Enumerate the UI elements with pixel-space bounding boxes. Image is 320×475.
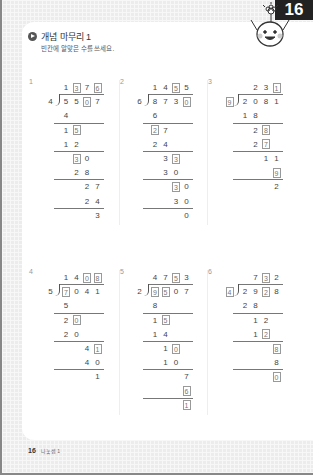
answer-box[interactable]: 6 (94, 83, 102, 93)
subtraction-line (143, 151, 193, 152)
digit: 0 (172, 357, 180, 368)
digit: 1 (151, 315, 159, 326)
digit: 8 (273, 286, 281, 297)
answer-box[interactable]: 8 (262, 125, 270, 135)
answer-box[interactable]: 3 (73, 83, 81, 93)
instruction-text: 빈칸에 알맞은 수를 쓰세요. (41, 43, 114, 53)
digit: 4 (62, 110, 70, 121)
digit: 4 (162, 139, 170, 150)
digit: 0 (172, 286, 180, 297)
division-bar (149, 284, 193, 285)
subtraction-line (54, 369, 104, 370)
subtraction-line (233, 123, 283, 124)
subtraction-line (233, 313, 283, 314)
answer-box[interactable]: 0 (183, 97, 191, 107)
subtraction-line (143, 179, 193, 180)
column-divider (207, 270, 208, 415)
subtraction-line (143, 208, 193, 209)
digit: 9 (252, 286, 260, 297)
digit: 0 (183, 196, 191, 207)
digit: 5 (47, 286, 55, 297)
digit: 1 (162, 343, 170, 354)
digit: 7 (162, 96, 170, 107)
answer-box[interactable]: 5 (162, 315, 170, 325)
footer: 16 나눗셈 1 (28, 447, 60, 454)
digit: 2 (73, 139, 81, 150)
digit: 2 (252, 125, 260, 136)
digit: 0 (183, 181, 191, 192)
digit: 2 (262, 315, 270, 326)
digit: 3 (172, 196, 180, 207)
digit: 4 (83, 357, 91, 368)
digit: 7 (94, 96, 102, 107)
answer-box[interactable]: 9 (151, 287, 159, 297)
answer-box[interactable]: 7 (262, 139, 270, 149)
digit: 1 (252, 329, 260, 340)
digit: 1 (162, 357, 170, 368)
answer-box[interactable]: 8 (273, 344, 281, 354)
division-bar (239, 284, 283, 285)
answer-box[interactable]: 2 (151, 125, 159, 135)
digit: 3 (262, 82, 270, 93)
digit: 2 (252, 139, 260, 150)
answer-box[interactable]: 2 (262, 329, 270, 339)
answer-box[interactable]: 5 (73, 125, 81, 135)
digit: 1 (62, 125, 70, 136)
digit: 4 (83, 343, 91, 354)
digit: 4 (162, 82, 170, 93)
answer-box[interactable]: 1 (183, 400, 191, 410)
subtraction-line (233, 369, 283, 370)
answer-box[interactable]: 3 (172, 182, 180, 192)
digit: 2 (273, 181, 281, 192)
digit: 5 (73, 96, 81, 107)
play-bullet-icon (28, 32, 37, 41)
answer-box[interactable]: 9 (226, 97, 234, 107)
answer-box[interactable]: 5 (172, 83, 180, 93)
column-divider (119, 270, 120, 415)
digit: 7 (183, 371, 191, 382)
answer-box[interactable]: 1 (94, 344, 102, 354)
digit: 4 (162, 329, 170, 340)
answer-box[interactable]: 9 (273, 168, 281, 178)
digit: 4 (83, 286, 91, 297)
digit: 3 (172, 96, 180, 107)
answer-box[interactable]: 5 (172, 273, 180, 283)
digit: 2 (241, 286, 249, 297)
subtraction-line (54, 313, 104, 314)
answer-box[interactable]: 2 (262, 287, 270, 297)
answer-box[interactable]: 0 (273, 372, 281, 382)
answer-box[interactable]: 1 (273, 83, 281, 93)
answer-box[interactable]: 0 (83, 97, 91, 107)
section-title-text: 개념 마무리 1 (41, 30, 91, 43)
digit: 4 (151, 272, 159, 283)
digit: 8 (262, 96, 270, 107)
answer-box[interactable]: 5 (162, 287, 170, 297)
answer-box[interactable]: 3 (73, 154, 81, 164)
subtraction-line (233, 151, 283, 152)
division-bar (239, 94, 283, 95)
digit: 2 (136, 286, 144, 297)
answer-box[interactable]: 0 (73, 315, 81, 325)
answer-box[interactable]: 3 (262, 273, 270, 283)
digit: 2 (151, 139, 159, 150)
digit: 7 (83, 82, 91, 93)
answer-box[interactable]: 3 (172, 154, 180, 164)
digit: 8 (151, 96, 159, 107)
digit: 1 (94, 371, 102, 382)
answer-box[interactable]: 8 (94, 273, 102, 283)
digit: 8 (273, 357, 281, 368)
problem-number: 2 (120, 78, 124, 85)
digit: 0 (172, 167, 180, 178)
subtraction-line (143, 398, 193, 399)
digit: 2 (273, 272, 281, 283)
digit: 2 (62, 315, 70, 326)
answer-box[interactable]: 7 (62, 287, 70, 297)
digit: 5 (62, 300, 70, 311)
answer-box[interactable]: 4 (226, 287, 234, 297)
answer-box[interactable]: 0 (172, 344, 180, 354)
digit: 1 (273, 96, 281, 107)
answer-box[interactable]: 6 (183, 386, 191, 396)
answer-box[interactable]: 0 (83, 273, 91, 283)
subtraction-line (54, 123, 104, 124)
digit: 6 (136, 96, 144, 107)
